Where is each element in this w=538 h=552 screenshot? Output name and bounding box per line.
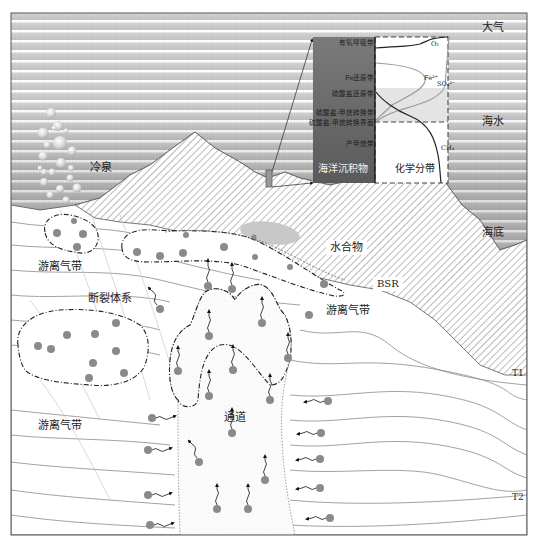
zone-smtz: 硫酸盐-甲烷转换带 bbox=[316, 110, 374, 117]
label-fe: Fe²⁺ bbox=[424, 75, 438, 82]
zone-smti: 硫酸盐-甲烷转换界面 bbox=[309, 120, 374, 127]
label-atmosphere: 大气 bbox=[482, 22, 504, 33]
label-ch4: CH₄ bbox=[441, 145, 454, 152]
inset-zone-labels: 有氧呼吸带 Fe还原带 硫酸盐还原带 硫酸盐-甲烷转换带 硫酸盐-甲烷转换界面 … bbox=[313, 37, 374, 183]
label-horizon-t1: T1 bbox=[512, 369, 524, 378]
inset-title-sediment: 海洋沉积物 bbox=[318, 164, 368, 174]
label-horizon-t2: T2 bbox=[512, 493, 524, 502]
label-free-gas-zone-top-left: 游离气带 bbox=[38, 261, 82, 272]
label-free-gas-zone-left-bottom: 游离气带 bbox=[38, 420, 82, 431]
label-so4: SO₄²⁻ bbox=[437, 81, 455, 88]
zone-fe-reduction: Fe还原带 bbox=[345, 75, 374, 82]
label-hydrate: 水合物 bbox=[326, 240, 367, 255]
cold-seep-diagram bbox=[0, 0, 538, 552]
inset-title-chemistry: 化学分带 bbox=[395, 164, 435, 174]
label-free-gas-zone-right: 游离气带 bbox=[326, 305, 370, 316]
label-conduit: 通道 bbox=[224, 412, 246, 423]
label-cold-seep: 冷泉 bbox=[90, 162, 112, 173]
label-fracture-system: 断裂体系 bbox=[88, 293, 132, 304]
zone-sulfate-reduction: 硫酸盐还原带 bbox=[332, 91, 374, 98]
label-seafloor: 海底 bbox=[482, 227, 504, 238]
label-bsr: BSR bbox=[373, 277, 403, 291]
label-seawater: 海水 bbox=[482, 116, 504, 127]
zone-aerobic: 有氧呼吸带 bbox=[339, 40, 374, 47]
label-o2: O₂ bbox=[431, 41, 439, 48]
zone-methanogenesis: 产甲烷带 bbox=[346, 141, 374, 148]
